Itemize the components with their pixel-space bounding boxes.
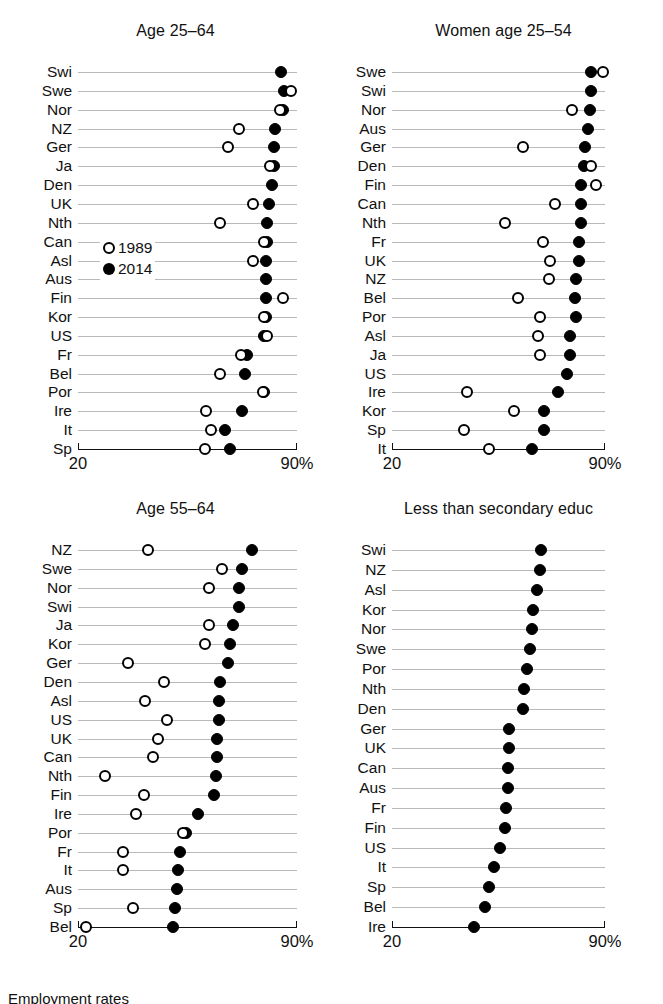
data-point-1989-can xyxy=(258,236,270,248)
row-label-swe: Swe xyxy=(356,62,386,81)
row-gridline xyxy=(78,889,297,890)
data-point-1989-fin xyxy=(590,179,602,191)
row-label-fr: Fr xyxy=(57,345,72,364)
data-point-2014-por xyxy=(521,663,533,675)
data-point-2014-aus xyxy=(171,883,183,895)
row-gridline xyxy=(78,852,297,853)
data-point-2014-asl xyxy=(213,695,225,707)
x-axis-label-max: 90% xyxy=(588,454,621,473)
data-point-1989-por xyxy=(257,386,269,398)
row-label-ire: Ire xyxy=(54,804,72,823)
row-label-us: US xyxy=(50,326,72,345)
row-gridline xyxy=(78,185,297,186)
data-point-2014-fin xyxy=(208,789,220,801)
data-point-1989-den xyxy=(158,676,170,688)
data-point-2014-nz xyxy=(570,273,582,285)
data-point-1989-nz xyxy=(233,123,245,135)
row-label-bel: Bel xyxy=(364,897,386,916)
row-label-kor: Kor xyxy=(48,634,72,653)
row-label-nth: Nth xyxy=(362,679,386,698)
row-gridline xyxy=(392,590,605,591)
data-point-1989-sp xyxy=(199,443,211,455)
data-point-2014-swi xyxy=(233,601,245,613)
row-gridline xyxy=(78,682,297,683)
row-label-den: Den xyxy=(358,699,386,718)
row-label-swe: Swe xyxy=(356,639,386,658)
data-point-2014-den xyxy=(517,703,529,715)
row-label-ger: Ger xyxy=(46,653,72,672)
x-axis-label-min: 20 xyxy=(69,454,87,473)
row-gridline xyxy=(392,550,605,551)
x-tick-max xyxy=(604,921,605,928)
data-point-2014-ja xyxy=(227,619,239,631)
data-point-2014-ja xyxy=(564,349,576,361)
row-label-swe: Swe xyxy=(42,559,72,578)
data-point-2014-nz xyxy=(534,564,546,576)
data-point-2014-us xyxy=(213,714,225,726)
row-gridline xyxy=(392,808,605,809)
plot-area: SwiNZAslKorNorSwePorNthDenGerUKCanAusFrF… xyxy=(392,546,605,931)
data-point-1989-ire xyxy=(461,386,473,398)
row-label-aus: Aus xyxy=(359,119,386,138)
data-point-2014-swi xyxy=(585,85,597,97)
data-point-2014-ire xyxy=(468,921,480,933)
row-gridline xyxy=(392,768,605,769)
row-gridline xyxy=(78,569,297,570)
row-label-it: It xyxy=(63,860,72,879)
data-point-2014-fr xyxy=(174,846,186,858)
data-point-1989-ire xyxy=(200,405,212,417)
row-gridline xyxy=(392,204,605,205)
data-point-2014-asl xyxy=(564,330,576,342)
data-point-1989-sp xyxy=(127,902,139,914)
row-label-den: Den xyxy=(44,175,72,194)
data-point-1989-swe xyxy=(597,66,609,78)
row-gridline xyxy=(78,72,297,73)
data-point-2014-ire xyxy=(192,808,204,820)
data-point-2014-nor xyxy=(584,104,596,116)
row-label-ja: Ja xyxy=(370,345,386,364)
panel-age-25-64: Age 25–64 SwiSweNorNZGerJaDenUKNthCanAsl… xyxy=(0,22,331,482)
row-gridline xyxy=(392,709,605,710)
data-point-2014-bel xyxy=(479,901,491,913)
data-point-1989-por xyxy=(534,311,546,323)
data-point-2014-sp xyxy=(538,424,550,436)
data-point-2014-ger xyxy=(222,657,234,669)
data-point-2014-den xyxy=(266,179,278,191)
data-point-2014-swe xyxy=(236,563,248,575)
data-point-2014-us xyxy=(561,368,573,380)
row-label-ger: Ger xyxy=(360,719,386,738)
data-point-2014-can xyxy=(575,198,587,210)
row-label-uk: UK xyxy=(364,251,386,270)
row-label-asl: Asl xyxy=(50,251,72,270)
row-label-it: It xyxy=(63,420,72,439)
data-point-2014-swe xyxy=(524,643,536,655)
row-gridline xyxy=(392,166,605,167)
row-label-can: Can xyxy=(44,232,72,251)
legend-label-2014: 2014 xyxy=(118,258,152,279)
legend-label-1989: 1989 xyxy=(118,237,152,258)
data-point-1989-swe xyxy=(285,85,297,97)
row-gridline xyxy=(78,908,297,909)
row-gridline xyxy=(392,129,605,130)
data-point-1989-nth xyxy=(214,217,226,229)
row-label-bel: Bel xyxy=(364,288,386,307)
row-label-us: US xyxy=(50,710,72,729)
data-point-1989-ger xyxy=(517,141,529,153)
row-gridline xyxy=(78,550,297,551)
row-label-uk: UK xyxy=(364,738,386,757)
data-point-2014-it xyxy=(219,424,231,436)
row-label-swi: Swi xyxy=(47,597,72,616)
data-point-2014-nz xyxy=(246,544,258,556)
data-point-2014-it xyxy=(488,861,500,873)
x-tick-max xyxy=(296,443,297,450)
row-label-nor: Nor xyxy=(47,100,72,119)
data-point-2014-bel xyxy=(239,368,251,380)
row-gridline xyxy=(392,788,605,789)
data-point-2014-fr xyxy=(573,236,585,248)
data-point-2014-ire xyxy=(236,405,248,417)
row-label-ja: Ja xyxy=(56,615,72,634)
row-gridline xyxy=(78,663,297,664)
x-axis-label-max: 90% xyxy=(280,454,313,473)
row-label-sp: Sp xyxy=(53,898,72,917)
row-gridline xyxy=(392,72,605,73)
